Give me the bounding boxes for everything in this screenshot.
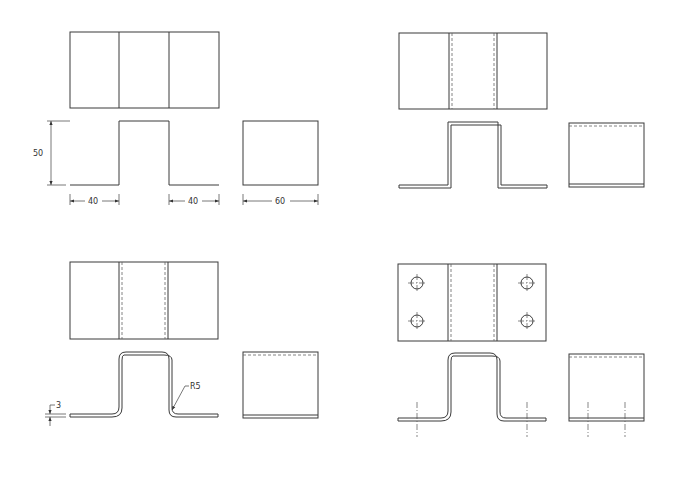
step-2-view	[399, 33, 644, 188]
step-2-plan-view	[399, 33, 547, 109]
dimension-bend-radius: R5	[172, 382, 201, 410]
hole-top-left	[408, 274, 426, 292]
dimension-right-flange: 40	[169, 194, 219, 206]
step-1-plan-view	[70, 32, 219, 108]
step-3-view: 3 R5	[45, 262, 318, 426]
dimension-thickness: 3	[45, 401, 66, 426]
step-4-plan-view	[398, 264, 546, 341]
hole-top-right	[518, 274, 536, 292]
step-2-front-view	[399, 122, 547, 188]
step-4-side-view	[569, 354, 644, 437]
step-3-plan-view	[70, 262, 218, 339]
dimension-right-flange-label: 40	[188, 197, 198, 206]
dimension-depth-label: 60	[275, 197, 285, 206]
technical-drawing: 50 40 40 60	[0, 0, 688, 479]
dimension-left-flange: 40	[70, 194, 119, 206]
dimension-height-label: 50	[33, 149, 43, 158]
step-1-view: 50 40 40 60	[33, 32, 318, 206]
step-4-front-view	[398, 353, 546, 437]
step-1-front-view	[70, 121, 219, 185]
dimension-bend-radius-label: R5	[190, 382, 201, 391]
step-1-side-view	[243, 121, 318, 185]
dimension-depth: 60	[243, 194, 318, 206]
dimension-left-flange-label: 40	[88, 197, 98, 206]
hole-bottom-left	[408, 312, 426, 330]
step-3-side-view	[243, 352, 318, 418]
dimension-height: 50	[33, 121, 70, 185]
step-4-view	[398, 264, 644, 437]
dimension-thickness-label: 3	[56, 401, 61, 410]
hole-bottom-right	[518, 312, 536, 330]
step-2-side-view	[569, 123, 644, 187]
